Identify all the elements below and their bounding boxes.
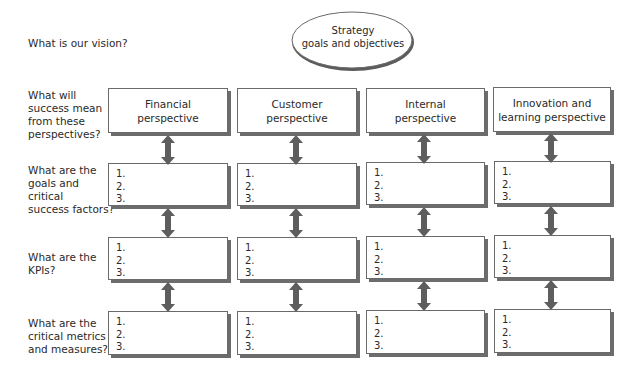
list-item: 2. [116, 181, 227, 194]
list-item: 3. [374, 192, 484, 205]
question-line: success factors? [28, 203, 114, 216]
double-arrow-icon [288, 208, 304, 238]
innovation-kpis-box: 1.2.3. [494, 235, 611, 278]
list-item: 3. [374, 266, 484, 279]
question-line: goals and [28, 177, 114, 190]
double-arrow-icon [543, 206, 559, 236]
question-line: critical [28, 190, 114, 203]
double-arrow-icon [160, 208, 176, 238]
perspective-line1: Customer [266, 97, 328, 111]
double-arrow-icon [416, 207, 432, 237]
strategy-line1: Strategy [290, 24, 416, 37]
list-item: 2. [116, 255, 227, 268]
strategy-ellipse: Strategy goals and objectives [290, 9, 416, 73]
question-kpis: What are the KPIs? [28, 251, 96, 277]
list-item: 2. [245, 329, 356, 342]
list-item: 1. [245, 316, 356, 329]
innovation-goals-box: 1.2.3. [494, 161, 611, 204]
perspective-line2: perspective [266, 111, 328, 125]
customer-kpis-box: 1.2.3. [237, 237, 357, 280]
list-item: 3. [116, 267, 227, 280]
perspective-line2: learning perspective [498, 110, 606, 124]
list-item: 2. [116, 329, 227, 342]
internal-perspective-box: Internalperspective [366, 88, 485, 133]
list-item: 1. [374, 167, 484, 180]
list-item: 1. [374, 241, 484, 254]
internal-kpis-box: 1.2.3. [366, 236, 485, 279]
question-line: What are the [28, 164, 114, 177]
list-item: 3. [374, 340, 484, 353]
question-metrics: What are the critical metrics and measur… [28, 317, 108, 356]
financial-metrics-box: 1.2.3. [108, 311, 228, 355]
question-success: What will success mean from these perspe… [28, 89, 102, 141]
question-line: What will [28, 89, 102, 102]
double-arrow-icon [543, 133, 559, 163]
strategy-line2: goals and objectives [290, 37, 416, 50]
list-item: 1. [502, 314, 610, 327]
question-line: and measures? [28, 343, 108, 356]
strategy-label: Strategy goals and objectives [290, 24, 416, 50]
perspective-line1: Internal [395, 97, 457, 111]
list-item: 3. [502, 339, 610, 352]
financial-goals-box: 1.2.3. [108, 163, 228, 206]
list-item: 1. [502, 166, 610, 179]
innovation-metrics-box: 1.2.3. [494, 309, 611, 353]
list-item: 1. [116, 168, 227, 181]
perspective-line1: Innovation and [498, 96, 606, 110]
list-item: 2. [502, 253, 610, 266]
perspective-line2: perspective [395, 111, 457, 125]
question-vision-text: What is our vision? [28, 37, 128, 49]
list-item: 2. [374, 180, 484, 193]
customer-goals-box: 1.2.3. [237, 163, 357, 206]
list-item: 3. [116, 341, 227, 354]
financial-perspective-box: Financialperspective [108, 88, 228, 133]
list-item: 2. [245, 181, 356, 194]
list-item: 2. [374, 328, 484, 341]
list-item: 1. [502, 240, 610, 253]
list-item: 1. [116, 242, 227, 255]
question-line: perspectives? [28, 128, 102, 141]
list-item: 3. [502, 265, 610, 278]
list-item: 2. [502, 327, 610, 340]
perspective-line2: perspective [137, 111, 199, 125]
question-line: success mean [28, 102, 102, 115]
list-item: 1. [116, 316, 227, 329]
list-item: 1. [245, 242, 356, 255]
list-item: 3. [502, 191, 610, 204]
list-item: 2. [502, 179, 610, 192]
question-goals: What are the goals and critical success … [28, 164, 114, 216]
customer-metrics-box: 1.2.3. [237, 311, 357, 355]
list-item: 1. [245, 168, 356, 181]
internal-goals-box: 1.2.3. [366, 162, 485, 205]
list-item: 3. [245, 341, 356, 354]
question-line: What are the [28, 251, 96, 264]
customer-perspective-box: Customerperspective [237, 88, 357, 133]
double-arrow-icon [160, 135, 176, 165]
question-line: What are the [28, 317, 108, 330]
list-item: 2. [374, 254, 484, 267]
list-item: 1. [374, 315, 484, 328]
financial-kpis-box: 1.2.3. [108, 237, 228, 280]
double-arrow-icon [288, 282, 304, 312]
list-item: 2. [245, 255, 356, 268]
innovation-perspective-box: Innovation andlearning perspective [493, 87, 611, 132]
list-item: 3. [245, 193, 356, 206]
double-arrow-icon [160, 282, 176, 312]
double-arrow-icon [416, 281, 432, 311]
double-arrow-icon [416, 134, 432, 164]
question-line: from these [28, 115, 102, 128]
list-item: 3. [245, 267, 356, 280]
question-line: KPIs? [28, 264, 96, 277]
question-vision: What is our vision? [28, 37, 128, 50]
internal-metrics-box: 1.2.3. [366, 310, 485, 354]
perspective-line1: Financial [137, 97, 199, 111]
question-line: critical metrics [28, 330, 108, 343]
list-item: 3. [116, 193, 227, 206]
double-arrow-icon [543, 280, 559, 310]
double-arrow-icon [288, 135, 304, 165]
